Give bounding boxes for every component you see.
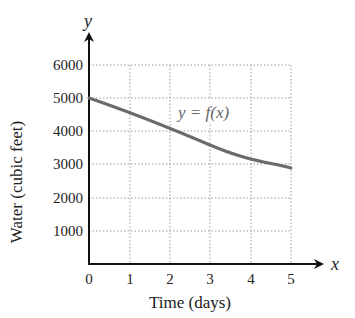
grid-horizontal [89,65,291,231]
y-tick-labels: 1000 2000 3000 4000 5000 6000 [53,57,83,239]
chart: y x 1000 2000 3000 4000 5000 6000 0 1 2 … [0,0,355,318]
y-tick: 6000 [53,57,83,73]
x-tick: 3 [206,271,214,287]
y-tick: 1000 [53,223,83,239]
y-axis-title: Water (cubic feet) [7,121,26,243]
y-axis-variable: y [82,11,92,31]
x-tick: 2 [166,271,174,287]
x-tick: 0 [85,271,93,287]
y-tick: 3000 [53,156,83,172]
x-axis-title: Time (days) [149,293,231,312]
y-tick: 5000 [53,90,83,106]
y-tick: 4000 [53,123,83,139]
x-tick: 1 [126,271,134,287]
x-tick: 5 [287,271,295,287]
curve-label: y = f(x) [176,103,229,122]
x-tick: 4 [247,271,255,287]
x-tick-labels: 0 1 2 3 4 5 [85,271,295,287]
x-axis-variable: x [330,254,339,274]
y-tick: 2000 [53,190,83,206]
grid-vertical [130,65,291,264]
